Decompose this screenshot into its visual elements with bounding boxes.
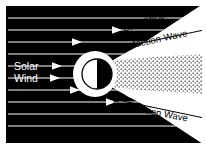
bow-shock-diagram: Solar Wind Bow Shock Rarefaction Wave Ra…: [0, 0, 206, 147]
diagram-canvas: Solar Wind Bow Shock Rarefaction Wave Ra…: [0, 0, 206, 147]
solar-wind-label-line1: Solar: [14, 60, 39, 72]
planetary-obstacle: [82, 59, 112, 89]
figure-container: Solar Wind Bow Shock Rarefaction Wave Ra…: [0, 0, 206, 147]
solar-wind-label-line2: Wind: [14, 72, 38, 84]
